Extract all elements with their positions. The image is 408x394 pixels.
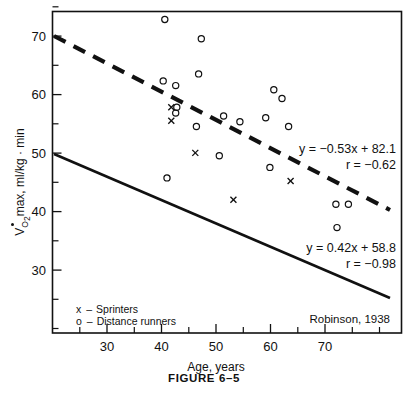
y-axis-major-ticks — [53, 36, 62, 270]
legend-dash-0: – — [86, 303, 92, 315]
x-tick-label-70: 70 — [318, 339, 332, 354]
legend-symbol-x: x — [76, 303, 82, 315]
legend-dash-1: – — [87, 315, 93, 327]
data-point-o — [196, 71, 202, 77]
data-point-o — [193, 123, 199, 129]
series-sprinters — [168, 104, 293, 203]
series-distance-runners — [160, 16, 351, 230]
data-point-o — [279, 95, 285, 101]
figure-container: 70 60 50 40 30 30 40 50 60 70 Age — [0, 0, 408, 394]
dashed-line-equation: y = −0.53x + 82.1 — [299, 142, 396, 156]
y-tick-label-50: 50 — [32, 146, 46, 161]
x-tick-label-50: 50 — [209, 339, 223, 354]
data-point-o — [198, 36, 204, 42]
data-point-o — [162, 16, 168, 22]
data-point-o — [173, 83, 179, 89]
plot-frame — [53, 12, 402, 334]
y-axis-title-main: max, ml/kg · min — [13, 128, 27, 216]
figure-caption: FIGURE 6–5 — [0, 372, 408, 384]
data-point-o — [173, 110, 179, 116]
y-tick-label-30: 30 — [32, 263, 46, 278]
data-point-o — [216, 153, 222, 159]
data-point-x — [168, 118, 174, 124]
x-tick-label-30: 30 — [100, 339, 114, 354]
y-tick-label-60: 60 — [32, 87, 46, 102]
y-axis-symbol-v: V — [13, 228, 27, 236]
data-point-o — [160, 78, 166, 84]
data-point-o — [174, 104, 180, 110]
data-point-o — [271, 87, 277, 93]
data-point-o — [237, 119, 243, 125]
v-dot-icon — [11, 223, 14, 226]
y-tick-label-70: 70 — [32, 29, 46, 44]
legend-symbol-o: o — [76, 315, 82, 327]
data-point-o — [334, 225, 340, 231]
x-tick-label-60: 60 — [263, 339, 277, 354]
source-citation: Robinson, 1938 — [309, 313, 390, 325]
y-axis-title: VO2max, ml/kg · min — [11, 128, 32, 235]
data-point-o — [267, 164, 273, 170]
data-point-o — [164, 175, 170, 181]
legend-item-distance-runners: o–Distance runners — [76, 315, 176, 327]
data-point-o — [221, 113, 227, 119]
regression-line-dashed — [54, 36, 390, 210]
svg-text:VO2max, ml/kg · min: VO2max, ml/kg · min — [13, 128, 32, 235]
dashed-line-correlation: r = −0.62 — [346, 158, 396, 172]
data-point-o — [286, 123, 292, 129]
solid-line-correlation: r = −0.98 — [346, 257, 396, 271]
data-point-o — [345, 201, 351, 207]
data-point-o — [333, 201, 339, 207]
x-tick-label-40: 40 — [154, 339, 168, 354]
data-point-x — [288, 178, 294, 184]
data-point-x — [192, 150, 198, 156]
y-axis-minor-ticks — [53, 7, 59, 329]
solid-line-equation: y = 0.42x + 58.8 — [306, 241, 396, 255]
legend-item-sprinters: x–Sprinters — [76, 303, 138, 315]
chart-legend: x–Sprinters o–Distance runners — [76, 303, 176, 327]
legend-label-sprinters: Sprinters — [96, 303, 138, 315]
y-tick-label-40: 40 — [32, 204, 46, 219]
x-axis-minor-ticks — [80, 327, 380, 333]
data-point-x — [230, 197, 236, 203]
legend-label-distance-runners: Distance runners — [97, 315, 176, 327]
vo2max-age-scatter-chart: 70 60 50 40 30 30 40 50 60 70 Age — [0, 0, 408, 394]
data-point-o — [263, 115, 269, 121]
